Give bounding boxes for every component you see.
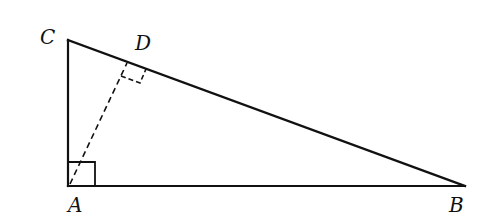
right-angle-marker-a — [68, 162, 95, 186]
altitude-ad — [70, 63, 127, 184]
label-b: B — [448, 193, 464, 217]
right-angle-marker-d — [121, 69, 146, 83]
triangle-diagram: C D A B — [0, 0, 480, 219]
label-a: A — [66, 193, 82, 217]
segment-cb — [68, 40, 465, 186]
label-d: D — [134, 31, 151, 55]
label-c: C — [40, 25, 55, 49]
